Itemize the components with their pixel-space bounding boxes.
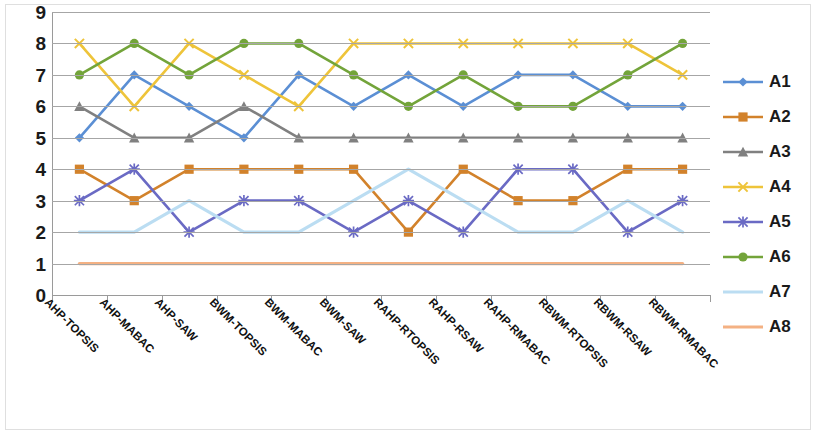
- legend-item-a5[interactable]: A5: [722, 204, 816, 239]
- legend-swatch-icon: [722, 179, 764, 195]
- y-axis-tick-label: 6: [35, 97, 46, 116]
- legend-label: A2: [769, 108, 791, 125]
- legend-item-a6[interactable]: A6: [722, 239, 816, 274]
- y-axis-tick-label: 2: [35, 223, 46, 242]
- legend-label: A7: [769, 283, 791, 300]
- x-axis-label: BWM-TOPSIS: [207, 296, 269, 358]
- series-line: [79, 106, 682, 137]
- x-axis-label: BWM-MABAC: [262, 296, 324, 358]
- legend-swatch-icon: [722, 249, 764, 265]
- gridline: [52, 75, 710, 76]
- legend-label: A1: [769, 73, 791, 90]
- series-layer: [52, 12, 710, 295]
- plot-area: [52, 12, 710, 295]
- y-axis: 9876543210: [22, 12, 50, 295]
- gridline: [52, 201, 710, 202]
- y-axis-tick-label: 4: [35, 160, 46, 179]
- x-axis-labels: AHP-TOPSISAHP-MABACAHP-SAWBWM-TOPSISBWM-…: [52, 296, 710, 436]
- x-axis-label: AHP-SAW: [153, 296, 200, 343]
- y-axis-tick-label: 1: [35, 254, 46, 273]
- y-axis-tick-label: 7: [35, 65, 46, 84]
- legend-swatch-icon: [722, 109, 764, 125]
- x-axis-label: RAHP-RSAW: [427, 296, 486, 355]
- legend-item-a3[interactable]: A3: [722, 134, 816, 169]
- legend-item-a1[interactable]: A1: [722, 64, 816, 99]
- gridline: [52, 43, 710, 44]
- gridline: [52, 264, 710, 265]
- y-axis-tick-label: 9: [35, 3, 46, 22]
- legend-swatch-icon: [722, 214, 764, 230]
- y-axis-tick-label: 3: [35, 191, 46, 210]
- x-axis-label: RBWM-RMABAC: [646, 296, 720, 370]
- legend-item-a4[interactable]: A4: [722, 169, 816, 204]
- x-axis-label: BWM-SAW: [317, 296, 368, 347]
- gridline: [52, 169, 710, 170]
- legend-label: A5: [769, 213, 791, 230]
- legend-swatch-icon: [722, 74, 764, 90]
- legend-item-a8[interactable]: A8: [722, 309, 816, 344]
- gridline: [52, 12, 710, 13]
- chart-legend: A1A2A3A4A5A6A7A8: [722, 64, 816, 344]
- x-axis-label: AHP-TOPSIS: [43, 296, 102, 355]
- legend-swatch-icon: [722, 284, 764, 300]
- x-axis-tick: [710, 295, 711, 302]
- gridline: [52, 138, 710, 139]
- chart-container: 9876543210 AHP-TOPSISAHP-MABACAHP-SAWBWM…: [0, 0, 820, 442]
- legend-swatch-icon: [722, 319, 764, 335]
- x-axis-label: AHP-MABAC: [98, 296, 157, 355]
- legend-label: A3: [769, 143, 791, 160]
- y-axis-tick-label: 8: [35, 34, 46, 53]
- legend-item-a7[interactable]: A7: [722, 274, 816, 309]
- legend-label: A4: [769, 178, 791, 195]
- legend-swatch-icon: [722, 144, 764, 160]
- legend-label: A8: [769, 318, 791, 335]
- y-axis-tick-label: 5: [35, 128, 46, 147]
- gridline: [52, 106, 710, 107]
- gridline: [52, 232, 710, 233]
- legend-item-a2[interactable]: A2: [722, 99, 816, 134]
- legend-label: A6: [769, 248, 791, 265]
- x-axis-label: RBWM-RSAW: [591, 296, 653, 358]
